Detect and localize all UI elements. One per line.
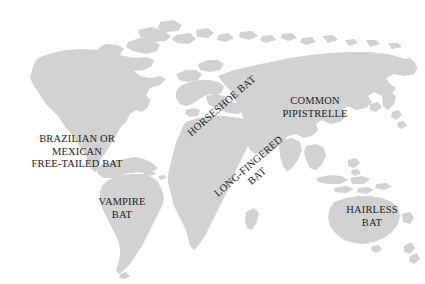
map-label-hairless-bat: HAIRLESS BAT xyxy=(336,204,408,229)
map-label-line: BRAZILIAN OR xyxy=(11,133,143,146)
map-label-line: PIPISTRELLE xyxy=(268,108,362,121)
map-label-line: VAMPIRE xyxy=(89,196,155,209)
map-label-line: BAT xyxy=(336,217,408,230)
world-bat-distribution-map: BRAZILIAN OR MEXICAN FREE-TAILED BAT VAM… xyxy=(0,0,425,284)
map-label-line: MEXICAN xyxy=(11,146,143,159)
map-label-common-pipistrelle: COMMON PIPISTRELLE xyxy=(268,95,362,120)
map-label-line: COMMON xyxy=(268,95,362,108)
map-label-brazilian-mexican-free-tailed-bat: BRAZILIAN OR MEXICAN FREE-TAILED BAT xyxy=(11,133,143,171)
map-label-line: FREE-TAILED BAT xyxy=(11,158,143,171)
map-label-line: HAIRLESS xyxy=(336,204,408,217)
map-label-vampire-bat: VAMPIRE BAT xyxy=(89,196,155,221)
map-label-line: BAT xyxy=(89,209,155,222)
